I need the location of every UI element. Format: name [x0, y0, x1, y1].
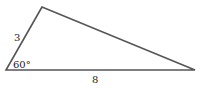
side-label-left: 3	[14, 32, 20, 43]
angle-label-bottom-left: 60°	[13, 59, 31, 70]
triangle-diagram: 3 60° 8	[0, 0, 201, 88]
side-label-bottom: 8	[92, 74, 98, 85]
triangle-shape	[6, 7, 195, 70]
